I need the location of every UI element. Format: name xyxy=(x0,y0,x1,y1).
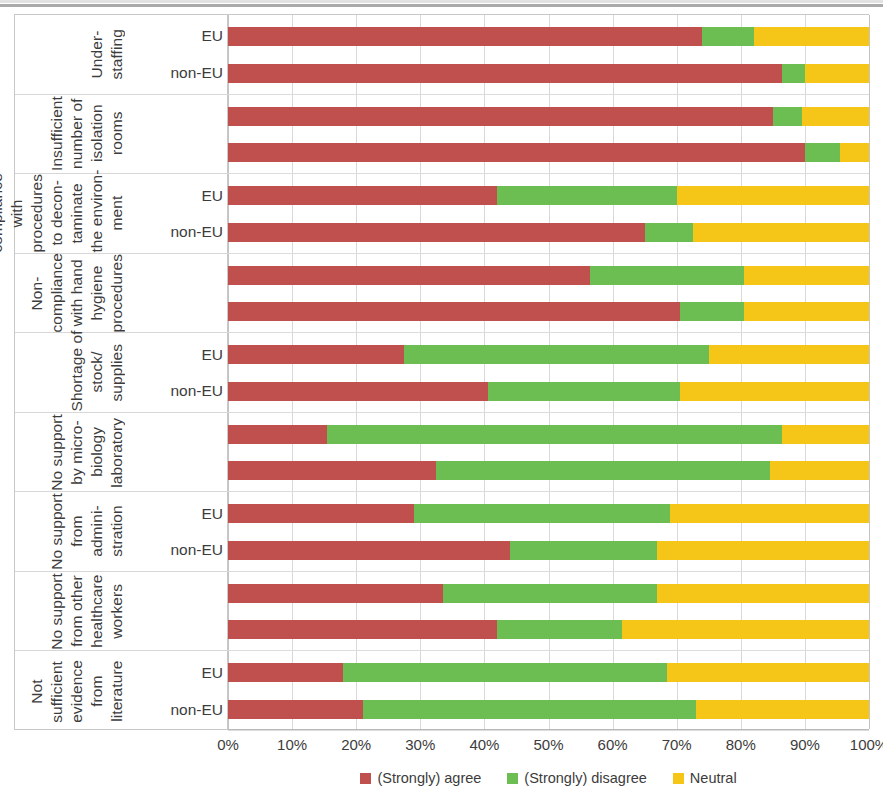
bar-segment-1 xyxy=(773,107,802,126)
bar-segment-2 xyxy=(744,302,869,321)
plot-area xyxy=(228,14,869,730)
bar-non-eu xyxy=(228,620,869,639)
bar-segment-2 xyxy=(805,64,869,83)
bar-segment-0 xyxy=(228,663,343,682)
bar-segment-2 xyxy=(622,620,869,639)
category-label: Shortage of stock/ supplies xyxy=(67,333,127,412)
category-label: No support by micro- biology laboratory xyxy=(47,414,127,491)
bar-segment-0 xyxy=(228,345,404,364)
bar-non-eu xyxy=(228,461,869,480)
x-tick-label: 100% xyxy=(850,736,883,753)
bar-segment-1 xyxy=(782,64,804,83)
bar-segment-0 xyxy=(228,266,590,285)
legend-swatch-icon xyxy=(507,773,518,784)
category-label: Not sufficient evidence from literature xyxy=(27,660,127,723)
bar-segment-2 xyxy=(802,107,869,126)
category-band: Under- staffingEUnon-EU xyxy=(15,15,229,95)
gridline-100 xyxy=(869,15,870,729)
bar-segment-1 xyxy=(488,382,680,401)
bar-segment-1 xyxy=(680,302,744,321)
bar-segment-2 xyxy=(677,186,869,205)
category-label: Insufficient number of isolation rooms xyxy=(47,96,127,171)
bar-segment-1 xyxy=(590,266,744,285)
bar-segment-0 xyxy=(228,223,645,242)
group-label-eu: EU xyxy=(133,27,223,45)
bar-segment-0 xyxy=(228,620,497,639)
scan-edge-dark xyxy=(0,4,883,7)
stacked-bar-chart: Under- staffingEUnon-EUInsufficient numb… xyxy=(0,0,883,798)
bar-segment-1 xyxy=(414,504,670,523)
x-tick-label: 90% xyxy=(790,736,820,753)
scan-edge-light xyxy=(0,0,883,3)
x-tick-label: 20% xyxy=(341,736,371,753)
bar-eu xyxy=(228,584,869,603)
bar-segment-2 xyxy=(754,27,869,46)
category-label-wrapper: Not sufficient evidence from literature xyxy=(15,651,229,731)
bar-segment-1 xyxy=(805,143,840,162)
bar-segment-0 xyxy=(228,27,702,46)
bar-segment-0 xyxy=(228,504,414,523)
bar-segment-1 xyxy=(443,584,658,603)
category-label-column: Under- staffingEUnon-EUInsufficient numb… xyxy=(14,14,228,730)
bar-segment-1 xyxy=(497,620,622,639)
x-tick-label: 60% xyxy=(598,736,628,753)
bar-segment-1 xyxy=(497,186,676,205)
bar-non-eu xyxy=(228,223,869,242)
legend-swatch-icon xyxy=(360,773,371,784)
bar-segment-2 xyxy=(782,425,869,444)
category-band: Non- compliance with hand hygiene proced… xyxy=(15,254,229,334)
bar-segment-1 xyxy=(327,425,782,444)
bar-eu xyxy=(228,663,869,682)
bar-non-eu xyxy=(228,382,869,401)
bar-segment-1 xyxy=(404,345,708,364)
group-label-non-eu: non-EU xyxy=(133,64,223,82)
bar-non-eu xyxy=(228,700,869,719)
category-label-wrapper: Shortage of stock/ supplies xyxy=(15,333,229,412)
legend-label: Neutral xyxy=(690,770,737,786)
category-label: Under- staffing xyxy=(87,29,127,80)
legend-item-2[interactable]: Neutral xyxy=(673,770,737,786)
category-label: No support from admini- stration xyxy=(47,493,127,570)
bar-segment-2 xyxy=(667,663,869,682)
bar-segment-2 xyxy=(840,143,869,162)
category-band: No support from other healthcare workers… xyxy=(15,572,229,652)
bar-eu xyxy=(228,107,869,126)
bar-eu xyxy=(228,504,869,523)
category-label: Poor compliance with procedures to decon… xyxy=(0,174,127,253)
bar-eu xyxy=(228,27,869,46)
bar-eu xyxy=(228,266,869,285)
bar-segment-1 xyxy=(436,461,769,480)
bar-segment-2 xyxy=(670,504,869,523)
bar-segment-0 xyxy=(228,541,510,560)
bar-segment-0 xyxy=(228,302,680,321)
bar-segment-0 xyxy=(228,700,363,719)
bar-segment-2 xyxy=(709,345,869,364)
bar-eu xyxy=(228,425,869,444)
category-band: No support by micro- biology laboratoryE… xyxy=(15,413,229,493)
bar-segment-1 xyxy=(510,541,657,560)
category-band: Shortage of stock/ suppliesEUnon-EU xyxy=(15,333,229,413)
category-label: No support from other healthcare workers xyxy=(47,573,127,650)
bar-non-eu xyxy=(228,143,869,162)
x-axis-tick-labels: 0%10%20%30%40%50%60%70%80%90%100% xyxy=(228,736,869,760)
legend-item-0[interactable]: (Strongly) agree xyxy=(360,770,481,786)
legend-label: (Strongly) disagree xyxy=(524,770,647,786)
bar-segment-1 xyxy=(363,700,696,719)
x-tick-label: 40% xyxy=(469,736,499,753)
legend-label: (Strongly) agree xyxy=(377,770,481,786)
bar-segment-2 xyxy=(744,266,869,285)
bar-segment-1 xyxy=(702,27,753,46)
bar-segment-0 xyxy=(228,382,488,401)
bar-eu xyxy=(228,186,869,205)
category-band: No support from admini- strationEUnon-EU xyxy=(15,492,229,572)
chart-plot-frame: Under- staffingEUnon-EUInsufficient numb… xyxy=(14,14,869,730)
bar-segment-0 xyxy=(228,107,773,126)
chart-legend: (Strongly) agree(Strongly) disagreeNeutr… xyxy=(228,766,869,790)
bar-segment-2 xyxy=(696,700,869,719)
legend-item-1[interactable]: (Strongly) disagree xyxy=(507,770,647,786)
bar-segment-0 xyxy=(228,143,805,162)
x-tick-label: 10% xyxy=(277,736,307,753)
x-tick-label: 80% xyxy=(726,736,756,753)
x-tick-label: 70% xyxy=(662,736,692,753)
category-label-wrapper: Non- compliance with hand hygiene proced… xyxy=(15,254,229,333)
